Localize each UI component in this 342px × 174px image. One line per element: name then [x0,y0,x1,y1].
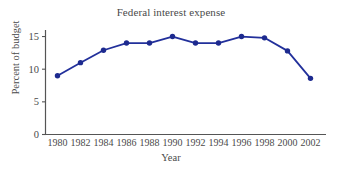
data-point-marker [262,35,267,40]
y-tick-group: 051015 [29,31,47,140]
x-tick-label: 1984 [94,137,114,148]
data-point-marker [101,48,106,53]
data-point-marker [285,48,290,53]
data-point-marker [124,40,129,45]
data-point-marker [308,76,313,81]
data-point-marker [193,40,198,45]
x-tick-label: 1990 [163,137,183,148]
axis-group [45,30,326,135]
data-point-marker [78,60,83,65]
x-tick-label: 1994 [209,137,229,148]
y-tick-label: 5 [34,96,39,107]
data-point-marker [239,34,244,39]
x-tick-label: 1998 [255,137,275,148]
data-line [58,37,311,79]
x-tick-label: 1986 [117,137,137,148]
data-point-marker [170,34,175,39]
y-tick-label: 15 [29,31,40,42]
data-point-marker [216,40,221,45]
plot-area: 051015 198019821984198619881990199219941… [0,0,342,174]
x-tick-label: 2002 [301,137,321,148]
x-tick-label: 1996 [232,137,252,148]
y-tick-label: 10 [29,64,40,75]
x-tick-group: 1980198219841986198819901992199419961998… [48,137,321,148]
y-tick-label: 0 [34,129,39,140]
data-point-marker [147,40,152,45]
x-tick-label: 1980 [48,137,68,148]
x-tick-label: 2000 [278,137,298,148]
x-tick-label: 1988 [140,137,160,148]
data-series-group [55,34,313,81]
chart-figure: Federal interest expense Percent of budg… [0,0,342,174]
x-tick-label: 1992 [186,137,206,148]
x-tick-label: 1982 [71,137,91,148]
data-point-marker [55,73,60,78]
